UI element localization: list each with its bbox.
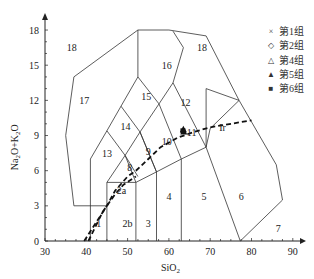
square-marker-icon: ■ bbox=[266, 82, 276, 96]
field-label: 8 bbox=[127, 162, 132, 173]
boundary-label: Ir bbox=[219, 122, 226, 133]
y-axis-arrow-icon bbox=[42, 13, 48, 20]
legend-item: ◇第2组 bbox=[266, 39, 304, 53]
field-label: 18 bbox=[67, 42, 77, 53]
y-axis-title: Na2O+K2O bbox=[9, 124, 22, 170]
field-label: 14 bbox=[121, 121, 131, 132]
y-tick-label: 9 bbox=[34, 130, 39, 141]
legend-label: 第1组 bbox=[279, 25, 304, 39]
field-label: 4 bbox=[166, 191, 171, 202]
field-boundary bbox=[107, 31, 183, 182]
filled-triangle-marker-icon: ▲ bbox=[266, 68, 276, 82]
square-data-point bbox=[180, 128, 185, 133]
field-boundary bbox=[173, 83, 206, 147]
legend-item: ▲第5组 bbox=[266, 68, 304, 82]
x-tick-label: 40 bbox=[81, 246, 91, 257]
legend-label: 第6组 bbox=[279, 82, 304, 96]
diamond-marker-icon: ◇ bbox=[266, 39, 276, 53]
field-label: 7 bbox=[276, 223, 281, 234]
x-axis-arrow-icon bbox=[300, 238, 306, 244]
x-tick-label: 70 bbox=[205, 246, 215, 257]
field-label: 2a bbox=[117, 185, 127, 196]
field-label: 13 bbox=[102, 148, 112, 159]
field-boundary bbox=[206, 147, 240, 241]
y-tick-label: 15 bbox=[29, 60, 39, 71]
x-axis-title: SiO2 bbox=[161, 262, 181, 275]
field-label: 9 bbox=[146, 146, 151, 157]
field-label: 18 bbox=[197, 42, 207, 53]
field-label: 17 bbox=[79, 95, 89, 106]
field-label: 11 bbox=[187, 127, 197, 138]
legend-item: △第4组 bbox=[266, 54, 304, 68]
alkaline-subalkaline-boundary bbox=[88, 177, 135, 242]
legend-item: ■第6组 bbox=[266, 82, 304, 96]
legend-label: 第5组 bbox=[279, 68, 304, 82]
y-tick-label: 3 bbox=[34, 200, 39, 211]
x-tick-label: 30 bbox=[40, 246, 50, 257]
legend-label: 第4组 bbox=[279, 54, 304, 68]
field-boundary bbox=[66, 30, 138, 206]
x-tick-label: 50 bbox=[123, 246, 133, 257]
field-label: 6 bbox=[239, 191, 244, 202]
triangle-marker-icon: △ bbox=[266, 54, 276, 68]
legend-label: 第2组 bbox=[279, 39, 304, 53]
field-boundary bbox=[138, 77, 181, 159]
field-label: 10 bbox=[162, 136, 172, 147]
y-tick-label: 6 bbox=[34, 165, 39, 176]
field-boundary bbox=[206, 89, 282, 241]
y-tick-label: 0 bbox=[34, 236, 39, 247]
field-label: 15 bbox=[141, 91, 151, 102]
x-tick-label: 60 bbox=[164, 246, 174, 257]
field-label: 1 bbox=[96, 218, 101, 229]
x-tick-label: 80 bbox=[247, 246, 257, 257]
field-boundary bbox=[138, 30, 239, 100]
field-label: 5 bbox=[202, 191, 207, 202]
legend-item: ×第1组 bbox=[266, 25, 304, 39]
field-boundary bbox=[90, 30, 137, 241]
field-label: 2b bbox=[123, 218, 133, 229]
field-label: 12 bbox=[180, 97, 190, 108]
legend: ×第1组 ◇第2组 △第4组 ▲第5组 ■第6组 bbox=[266, 25, 304, 96]
field-label: 3 bbox=[146, 218, 151, 229]
y-tick-label: 12 bbox=[29, 95, 39, 106]
y-tick-label: 18 bbox=[29, 25, 39, 36]
field-label: 16 bbox=[162, 60, 172, 71]
cross-marker-icon: × bbox=[266, 25, 276, 39]
x-tick-label: 90 bbox=[288, 246, 298, 257]
